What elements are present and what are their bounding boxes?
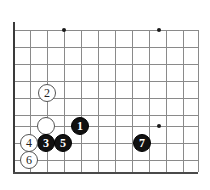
stone-move-number: 1 (77, 120, 83, 132)
grid-line-horizontal (13, 160, 198, 161)
stone-move-number: 6 (26, 154, 32, 166)
stone-black-7[interactable]: 7 (133, 134, 151, 152)
board-edge-left (13, 22, 15, 173)
stone-black-5[interactable]: 5 (54, 134, 72, 152)
stone-white-6[interactable]: 6 (20, 151, 38, 169)
stone-move-number: 4 (26, 137, 32, 149)
stone-move-number: 7 (139, 137, 145, 149)
stone-move-number: 5 (60, 137, 66, 149)
grid-line-horizontal (13, 47, 198, 48)
board-edge-bottom (13, 172, 198, 174)
grid-line-vertical (198, 30, 199, 172)
grid-line-horizontal (13, 115, 198, 116)
stone-white-4[interactable]: 4 (20, 134, 38, 152)
stone-white-unnumbered[interactable] (37, 117, 55, 135)
stone-white-2[interactable]: 2 (38, 84, 56, 102)
grid-line-vertical (115, 30, 116, 172)
hoshi-top-right (157, 28, 161, 32)
grid-line-vertical (166, 30, 167, 172)
hoshi-top-left (62, 28, 66, 32)
stone-black-3[interactable]: 3 (37, 134, 55, 152)
grid-line-vertical (149, 30, 150, 172)
hoshi-bottom-right (157, 124, 161, 128)
stone-black-1[interactable]: 1 (71, 117, 89, 135)
stone-move-number: 2 (44, 87, 50, 99)
grid-line-vertical (98, 30, 99, 172)
grid-line-vertical (132, 30, 133, 172)
grid-line-vertical (81, 30, 82, 172)
grid-line-horizontal (13, 81, 198, 82)
stone-move-number: 3 (43, 137, 49, 149)
grid-line-horizontal (13, 30, 198, 31)
grid-line-vertical (183, 30, 184, 172)
go-board-diagram: 1234567 (0, 0, 210, 190)
grid-line-horizontal (13, 64, 198, 65)
